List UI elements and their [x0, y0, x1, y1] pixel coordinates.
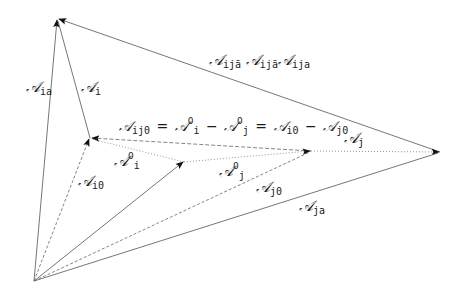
label-sub: ija [292, 59, 310, 70]
vector-A-ia [34, 20, 57, 281]
label-A-i-sup0: 𝒜0i [114, 152, 140, 171]
label-base: 𝒜 [78, 172, 92, 190]
label-A-ja: 𝒜ja [299, 199, 325, 216]
label-sub: i [95, 86, 101, 97]
label-A-j-sup0: 𝒜0j [219, 162, 245, 181]
eq-equals: = [255, 118, 267, 134]
label-sub: i [134, 160, 140, 171]
vector-diagram: 𝒜ia 𝒜i 𝒜ijā 𝒜ijā𝒜ija 𝒜ij0 = 𝒜0i − 𝒜0j = … [0, 0, 466, 301]
label-base: 𝒜 [209, 51, 223, 69]
eq-term-base: 𝒜 [274, 118, 287, 134]
label-sub: ijā [260, 59, 278, 70]
eq-minus: − [305, 118, 317, 134]
eq-minus: − [206, 118, 218, 134]
label-A-j0: 𝒜j0 [256, 180, 282, 197]
label-A-i0: 𝒜i0 [78, 174, 104, 191]
label-A-ija-top: 𝒜ijā 𝒜ijā𝒜ija [209, 53, 310, 70]
eq-term-sub: j [243, 125, 249, 136]
eq-term-sub: i [193, 125, 199, 136]
label-base: 𝒜 [246, 51, 260, 69]
eq-term-base: 𝒜 [224, 118, 237, 134]
eq-lhs-sub: ij0 [132, 125, 150, 136]
label-A-ia: 𝒜ia [26, 80, 52, 97]
label-base: 𝒜 [299, 197, 313, 215]
vector-origin-center [34, 162, 183, 281]
eq-equals: = [157, 118, 169, 134]
label-base: 𝒜 [278, 51, 292, 69]
diagram-lines [0, 0, 466, 301]
label-base: 𝒜 [114, 152, 128, 170]
vector-A-j-sup0 [184, 151, 310, 162]
equation-label: 𝒜ij0 = 𝒜0i − 𝒜0j = 𝒜i0 − 𝒜j0 [119, 117, 348, 136]
label-sub: ja [313, 205, 325, 216]
vector-A-j [311, 151, 439, 152]
label-base: 𝒜 [256, 178, 270, 196]
label-base: 𝒜 [81, 78, 95, 96]
vector-A-i0 [34, 139, 89, 281]
label-base: 𝒜 [219, 162, 233, 180]
eq-term-sub: i0 [287, 125, 299, 136]
label-sub: j [358, 137, 364, 148]
vector-A-ij0 [92, 138, 311, 151]
eq-term-base: 𝒜 [175, 118, 188, 134]
label-sub: ijā [223, 59, 241, 70]
label-base: 𝒜 [344, 129, 358, 147]
label-A-j: 𝒜j [344, 131, 364, 148]
label-sub: j0 [270, 186, 282, 197]
label-base: 𝒜 [26, 78, 40, 96]
label-sub: i0 [92, 180, 104, 191]
label-sub: ia [40, 86, 52, 97]
eq-term-base: 𝒜 [323, 118, 336, 134]
label-sub: j [239, 170, 245, 181]
eq-lhs-base: 𝒜 [119, 118, 132, 134]
label-A-i: 𝒜i [81, 80, 101, 97]
